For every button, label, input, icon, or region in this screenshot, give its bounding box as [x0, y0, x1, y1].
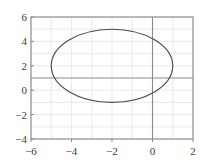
x-tick-label: −4	[66, 145, 78, 157]
y-tick-label: 4	[22, 35, 28, 47]
ellipse-plot: 6 4 2 0 −2 −4 −6 −4 −2 0 2	[0, 0, 205, 168]
chart-figure: 6 4 2 0 −2 −4 −6 −4 −2 0 2	[0, 0, 205, 168]
y-tick-label: 0	[22, 84, 28, 96]
x-tick-label: 2	[190, 145, 196, 157]
x-tick-label: −6	[25, 145, 37, 157]
y-tick-label: −4	[15, 133, 27, 145]
x-tick-label: −2	[106, 145, 118, 157]
y-tick-label: 2	[22, 60, 28, 72]
y-tick-label: −2	[15, 109, 27, 121]
y-tick-label: 6	[22, 11, 28, 23]
x-tick-label: 0	[150, 145, 156, 157]
